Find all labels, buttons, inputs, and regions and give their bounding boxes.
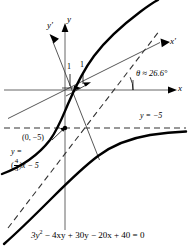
slant-asymptote-label-line1: y = [11,148,39,156]
equation-caption: 3y2 − 4xy + 30y − 20x + 40 = 0 [31,231,144,240]
x-unit-tick-label: 1 [80,61,84,69]
x-axis [4,87,177,94]
fraction-denominator: 3 [14,166,20,173]
y-unit-tick-label: 1 [67,63,71,71]
y-axis-label: y [67,15,71,24]
equation-rest: − 4xy + 30y − 20x + 40 = 0 [43,230,145,240]
y-prime-axis-label: y' [47,21,53,30]
asymptote-slant [8,30,160,228]
slant-asymptote-label-line2: (43)x − 5 [11,158,39,174]
slant-asymptote-fraction: 43 [14,158,20,174]
horizontal-asymptote-label: y = −5 [140,112,162,120]
rotation-angle-label: θ ≈ 26.6° [136,69,167,78]
x-axis-label: x [178,84,182,93]
x-prime-axis-label: x' [170,37,176,46]
intercept-point-label: (0, −5) [22,134,44,142]
x-prime-axis [8,39,170,119]
y-prime-axis [50,34,100,160]
math-figure: y' y x' x 1 1 θ ≈ 26.6° (0, −5) y = −5 y… [0,0,190,250]
angle-arc [130,77,133,90]
equation-lead: 3y [31,230,40,240]
slant-asymptote-tail: )x − 5 [19,161,39,170]
graph-canvas [0,0,190,250]
slant-asymptote-label: y = (43)x − 5 [11,148,39,174]
